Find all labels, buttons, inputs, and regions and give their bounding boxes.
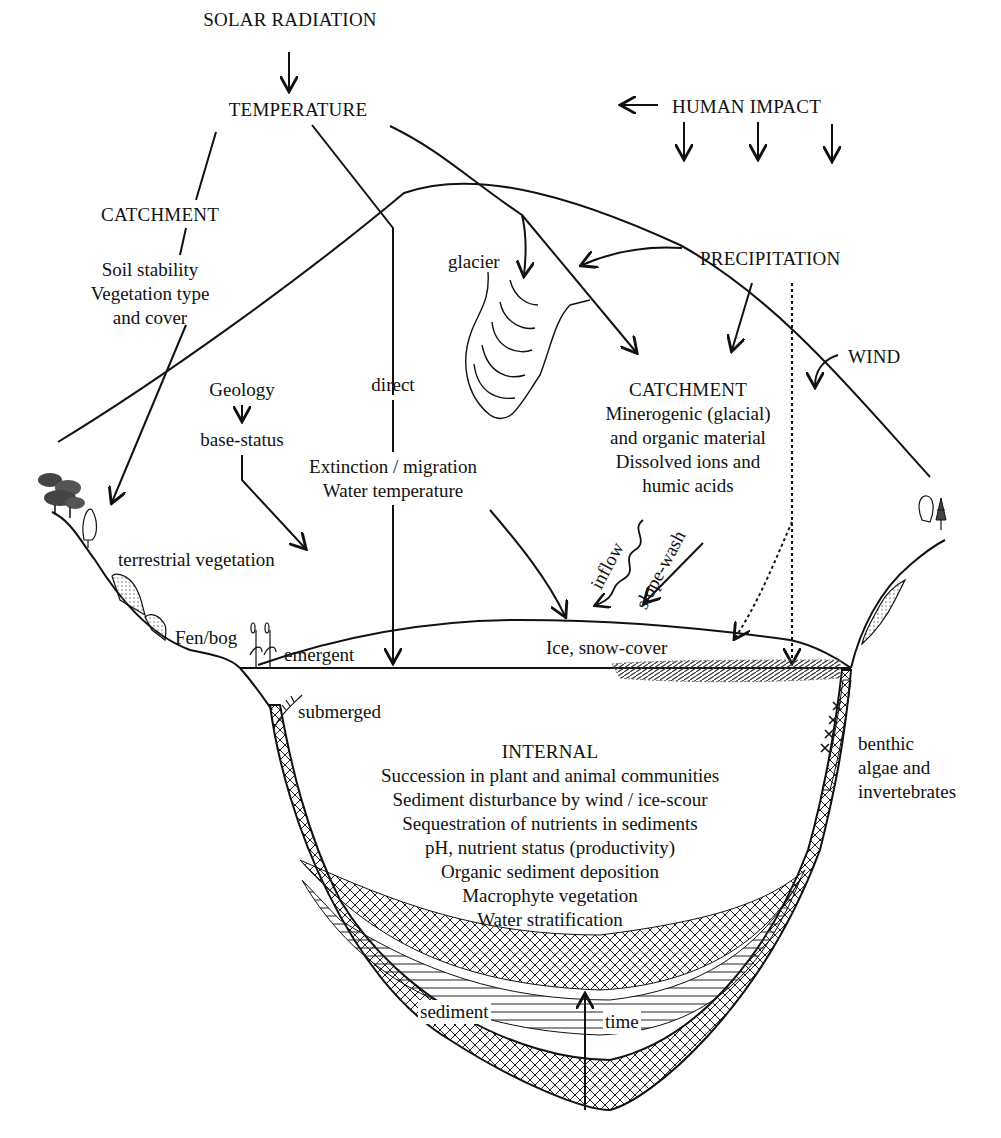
- ice-snow-cover-label: Ice, snow-cover: [546, 636, 667, 660]
- water-temp-to-ice-arrow: [490, 510, 565, 616]
- wind-label: WIND: [848, 345, 901, 369]
- geology-label: Geology: [209, 378, 274, 402]
- temp-to-catchment-line: [196, 132, 216, 200]
- internal-title: INTERNAL: [502, 740, 599, 764]
- precip-to-catchment-arrow: [732, 283, 752, 350]
- catchment-to-soil-line: [180, 228, 186, 255]
- left-slope-line: [52, 512, 272, 710]
- fen-bog-label: Fen/bog: [175, 626, 237, 650]
- catchment-left-details: Soil stability Vegetation type and cover: [91, 258, 210, 330]
- temperature-label: TEMPERATURE: [229, 98, 367, 122]
- base-to-terrestrial-arrow: [242, 455, 305, 548]
- direct-effects: Extinction / migration Water temperature: [309, 455, 477, 503]
- direct-label: direct: [371, 373, 414, 397]
- right-slope-line: [851, 540, 945, 668]
- precip-to-glacier-arrow: [582, 247, 682, 265]
- sediment-label: sediment: [418, 1000, 491, 1024]
- ice-layer: [612, 660, 840, 682]
- precip-to-snow-dotted-arrow: [735, 522, 792, 638]
- temp-to-direct-line: [312, 125, 393, 395]
- right-shrubs-icon: [862, 580, 905, 644]
- emergent-label: emergent: [284, 643, 354, 667]
- catchment-right-title: CATCHMENT: [629, 378, 747, 402]
- terrestrial-vegetation-label: terrestrial vegetation: [118, 548, 275, 572]
- precipitation-label: PRECIPITATION: [700, 247, 840, 271]
- human-impact-label: HUMAN IMPACT: [672, 95, 821, 119]
- catchment-left-title: CATCHMENT: [101, 203, 219, 227]
- internal-factors-list: Succession in plant and animal communiti…: [381, 764, 719, 932]
- benthic-label: benthic algae and invertebrates: [858, 732, 956, 804]
- time-label: time: [603, 1010, 641, 1034]
- catchment-right-details: Minerogenic (glacial) and organic materi…: [605, 402, 770, 498]
- glacier-label: glacier: [448, 250, 500, 274]
- right-trees-icon: [919, 496, 946, 530]
- left-shrubs-icon: [112, 574, 166, 640]
- catchment-to-trees-arrow: [112, 325, 186, 502]
- solar-radiation-label: SOLAR RADIATION: [203, 8, 376, 32]
- left-trees-icon: [38, 473, 97, 548]
- submerged-label: submerged: [298, 700, 381, 724]
- base-status-label: base-status: [200, 428, 283, 452]
- glacier-icon: [466, 272, 590, 419]
- temp-to-catchment-right-arrow: [522, 215, 636, 352]
